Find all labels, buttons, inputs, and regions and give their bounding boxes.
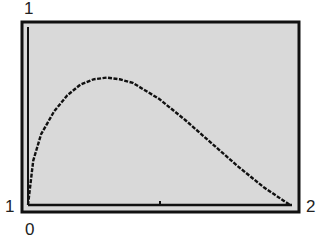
y-min-label: 0 bbox=[25, 221, 34, 238]
y-tick-mid bbox=[27, 117, 29, 119]
y-tick-top bbox=[27, 27, 29, 29]
graph-svg bbox=[0, 0, 316, 242]
x-min-label: 1 bbox=[5, 198, 14, 215]
x-max-label: 2 bbox=[306, 198, 315, 215]
x-tick-mid bbox=[159, 201, 161, 205]
screen-frame bbox=[22, 22, 299, 212]
y-top-label: 1 bbox=[24, 0, 33, 17]
